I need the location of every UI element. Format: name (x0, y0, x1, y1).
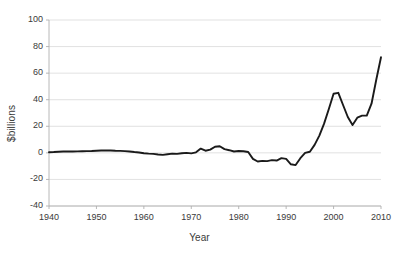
x-tick-label-1990: 1990 (266, 212, 306, 222)
y-tick-label--20: -20 (17, 173, 43, 183)
x-axis-title-label: Year (189, 232, 210, 243)
y-tick-label-60: 60 (17, 67, 43, 77)
y-tick-label-100: 100 (17, 14, 43, 24)
y-tick-label--40: -40 (17, 200, 43, 210)
line-chart: $billions 100806040200-20-40 19401950196… (0, 0, 399, 256)
x-tick-label-2000: 2000 (314, 212, 354, 222)
x-tick-label-1950: 1950 (76, 212, 116, 222)
x-tick-label-1960: 1960 (124, 212, 164, 222)
x-axis-title: Year (0, 232, 399, 243)
x-tick-label-1980: 1980 (219, 212, 259, 222)
axis-tickmarks (46, 20, 381, 209)
x-tick-label-1940: 1940 (29, 212, 69, 222)
y-tick-label-0: 0 (17, 147, 43, 157)
gridlines (49, 20, 381, 206)
y-tick-label-20: 20 (17, 120, 43, 130)
x-tick-label-1970: 1970 (171, 212, 211, 222)
y-tick-label-40: 40 (17, 94, 43, 104)
y-tick-label-80: 80 (17, 41, 43, 51)
x-tick-label-2010: 2010 (361, 212, 399, 222)
